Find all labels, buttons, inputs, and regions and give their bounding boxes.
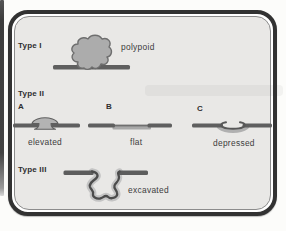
polypoid-descriptor: polypoid	[121, 43, 155, 51]
type1-label: Type I	[18, 42, 42, 50]
excavated-descriptor: excavated	[128, 186, 169, 194]
elevated-descriptor: elevated	[28, 138, 62, 146]
mucosa-line-type2c-right	[243, 124, 273, 128]
type2a-elevated-figure	[13, 118, 80, 130]
flat-descriptor: flat	[130, 138, 142, 146]
variant-a-letter: A	[18, 103, 24, 111]
mucosa-line-type2b-right	[148, 124, 173, 128]
type2-label: Type II	[18, 90, 44, 98]
type1-polypoid-figure	[53, 35, 130, 69]
type2c-depressed-figure	[192, 122, 272, 131]
flat-lesion-line	[114, 125, 149, 127]
mucosa-line-type2c-left	[192, 124, 223, 128]
diagram-stage: Type I polypoid Type II A elevated B fla…	[0, 0, 286, 231]
depressed-lesion-shape	[221, 122, 245, 128]
type2b-flat-figure	[88, 124, 172, 130]
mucosa-line-type3-left	[64, 171, 94, 176]
variant-b-letter: B	[106, 103, 112, 111]
variant-c-letter: C	[197, 105, 203, 113]
type3-label: Type III	[18, 166, 47, 174]
lesion-shapes-canvas	[0, 0, 286, 231]
mucosa-line-type2b-left	[88, 124, 115, 128]
polypoid-lesion-shape	[72, 35, 112, 69]
mucosa-line-type3-right	[119, 171, 149, 176]
depressed-descriptor: depressed	[213, 139, 255, 147]
elevated-lesion-shape	[32, 118, 58, 130]
